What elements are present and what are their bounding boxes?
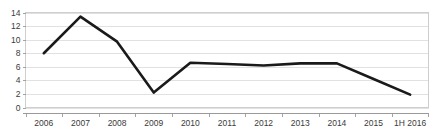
x-tick-label-2011: 2011 xyxy=(218,118,237,128)
x-tick-label-2012: 2012 xyxy=(254,118,273,128)
x-tick-label-2013: 2013 xyxy=(291,118,310,128)
line-chart: 02468101214 2006200720082009201020112012… xyxy=(0,0,438,139)
x-tick-label-2008: 2008 xyxy=(108,118,127,128)
x-tick-label-1H-2016: 1H 2016 xyxy=(394,118,426,128)
y-tick-label-8: 8 xyxy=(16,48,21,58)
x-tick-label-2009: 2009 xyxy=(144,118,163,128)
y-tick-label-10: 10 xyxy=(11,35,21,45)
x-tick-label-2007: 2007 xyxy=(71,118,90,128)
y-tick-label-2: 2 xyxy=(16,89,21,99)
x-tick-label-2015: 2015 xyxy=(364,118,383,128)
y-tick-label-14: 14 xyxy=(11,8,21,18)
x-tick-label-2006: 2006 xyxy=(34,118,53,128)
chart-canvas: 02468101214 2006200720082009201020112012… xyxy=(0,0,438,139)
x-tick-label-2010: 2010 xyxy=(181,118,200,128)
y-tick-label-12: 12 xyxy=(11,21,21,31)
x-tick-label-2014: 2014 xyxy=(327,118,346,128)
y-tick-label-4: 4 xyxy=(16,75,21,85)
y-tick-label-0: 0 xyxy=(16,103,21,113)
y-tick-label-6: 6 xyxy=(16,62,21,72)
